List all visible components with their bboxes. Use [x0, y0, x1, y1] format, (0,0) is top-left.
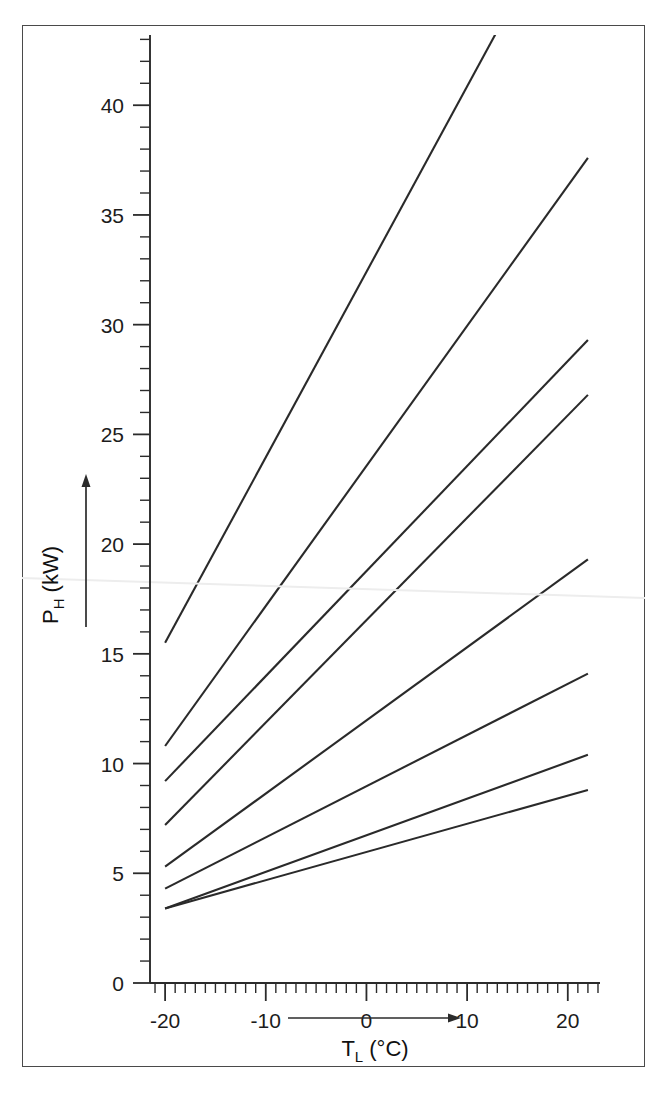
- y-tick-label: 15: [101, 643, 124, 666]
- x-title-unit: (°C): [363, 1036, 408, 1061]
- y-axis-title: PH (kW): [38, 546, 67, 624]
- x-title-sub: L: [355, 1048, 363, 1065]
- y-axis-arrow: [82, 474, 91, 627]
- y-tick-label: 30: [101, 314, 124, 337]
- y-axis-ticks: [133, 39, 150, 983]
- svg-text:PH (kW): PH (kW): [38, 546, 67, 624]
- data-line: [165, 790, 588, 909]
- data-line: [165, 395, 588, 825]
- data-line: [165, 158, 588, 746]
- y-tick-label: 0: [112, 972, 124, 995]
- y-tick-label: 5: [112, 862, 124, 885]
- x-tick-label: -10: [251, 1009, 281, 1032]
- y-title-unit: (kW): [38, 546, 63, 599]
- x-tick-label: 20: [556, 1009, 579, 1032]
- data-line: [165, 340, 588, 781]
- x-axis-arrow: [288, 1014, 461, 1023]
- chart-plot: 0510152025303540 -20-1001020 PH (kW) TL …: [0, 0, 668, 1101]
- y-tick-label: 35: [101, 204, 124, 227]
- y-tick-label: 20: [101, 533, 124, 556]
- x-axis-ticks: [155, 983, 598, 1001]
- y-title-sub: H: [50, 599, 67, 610]
- y-tick-label: 10: [101, 753, 124, 776]
- x-tick-label: -20: [150, 1009, 180, 1032]
- figure-container: 0510152025303540 -20-1001020 PH (kW) TL …: [0, 0, 668, 1101]
- y-title-main: P: [38, 609, 63, 624]
- x-title-main: T: [341, 1036, 354, 1061]
- y-axis-tick-labels: 0510152025303540: [101, 94, 124, 995]
- data-line: [165, 755, 588, 909]
- data-series-group: [165, 0, 588, 908]
- y-tick-label: 40: [101, 94, 124, 117]
- x-axis-title: TL (°C): [341, 1036, 408, 1065]
- data-line: [165, 674, 588, 889]
- x-tick-label: 10: [455, 1009, 478, 1032]
- x-tick-label: 0: [361, 1009, 373, 1032]
- x-axis-tick-labels: -20-1001020: [150, 1009, 580, 1032]
- data-line: [165, 559, 588, 866]
- y-tick-label: 25: [101, 423, 124, 446]
- data-line: [165, 0, 588, 643]
- scan-artifact-line: [22, 578, 645, 598]
